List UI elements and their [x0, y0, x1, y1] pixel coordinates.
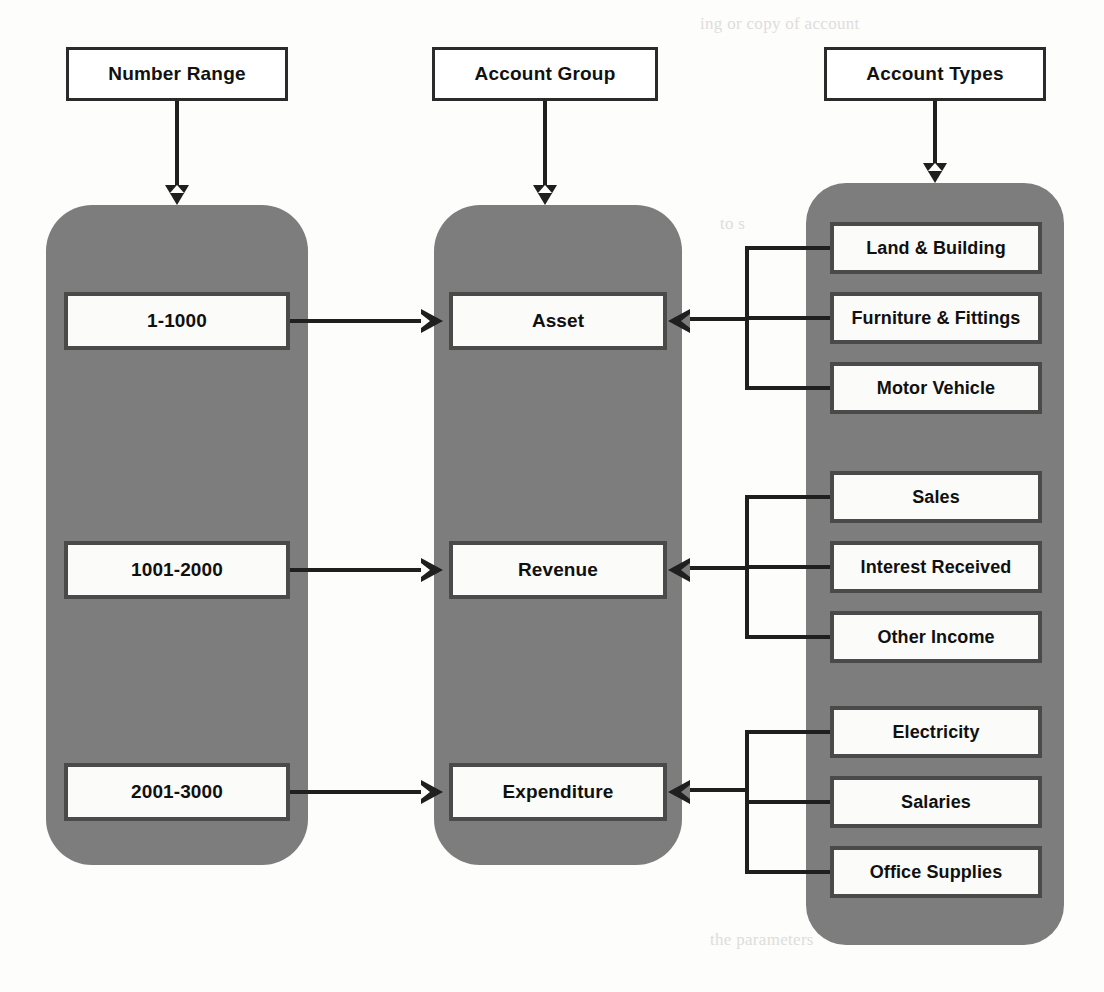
box-type-salaries-label: Salaries: [901, 792, 971, 813]
box-type-electricity-label: Electricity: [892, 722, 979, 743]
background-text-1: ing or copy of account: [700, 14, 860, 34]
background-text-3: to s: [720, 214, 745, 234]
box-type-electricity[interactable]: Electricity: [830, 706, 1042, 758]
box-type-other-income-label: Other Income: [877, 627, 994, 648]
box-group-revenue[interactable]: Revenue: [449, 541, 667, 599]
box-group-expenditure[interactable]: Expenditure: [449, 763, 667, 821]
connector-stub-furniture-fittings: [745, 316, 832, 320]
arrow-asset-types-to-group: [668, 309, 690, 333]
connector-bus-expenditure-to-group: [690, 788, 749, 792]
header-number-range-label: Number Range: [108, 63, 246, 85]
arrow-header-account-group: [533, 185, 557, 205]
box-type-furniture-fittings-label: Furniture & Fittings: [852, 308, 1021, 329]
connector-bus-expenditure: [745, 730, 749, 874]
diagram-canvas: ing or copy of account for its credit an…: [0, 0, 1104, 992]
box-type-land-building-label: Land & Building: [866, 238, 1005, 259]
box-type-other-income[interactable]: Other Income: [830, 611, 1042, 663]
connector-stub-interest-received: [745, 565, 832, 569]
box-type-motor-vehicle[interactable]: Motor Vehicle: [830, 362, 1042, 414]
arrow-revenue-types-to-group: [668, 558, 690, 582]
box-group-asset[interactable]: Asset: [449, 292, 667, 350]
box-range-revenue-label: 1001-2000: [131, 559, 223, 581]
header-account-group[interactable]: Account Group: [432, 47, 658, 101]
connector-stub-office-supplies: [745, 870, 832, 874]
header-number-range[interactable]: Number Range: [66, 47, 288, 101]
arrow-header-number-range: [165, 185, 189, 205]
connector-range-revenue-to-group: [290, 568, 425, 572]
header-account-types-label: Account Types: [866, 63, 1003, 85]
box-range-revenue[interactable]: 1001-2000: [64, 541, 290, 599]
connector-bus-revenue-to-group: [690, 566, 749, 570]
arrow-header-account-types: [923, 163, 947, 183]
arrow-expenditure-types-to-group: [668, 780, 690, 804]
header-account-types[interactable]: Account Types: [824, 47, 1046, 101]
box-type-interest-received[interactable]: Interest Received: [830, 541, 1042, 593]
connector-stub-salaries: [745, 800, 832, 804]
connector-header-account-types: [933, 101, 937, 163]
arrow-range-expenditure-to-group: [421, 780, 443, 804]
box-type-office-supplies-label: Office Supplies: [870, 862, 1003, 883]
connector-stub-sales: [745, 495, 832, 499]
connector-stub-motor-vehicle: [745, 386, 832, 390]
box-group-revenue-label: Revenue: [518, 559, 598, 581]
box-type-office-supplies[interactable]: Office Supplies: [830, 846, 1042, 898]
header-account-group-label: Account Group: [475, 63, 616, 85]
box-type-motor-vehicle-label: Motor Vehicle: [877, 378, 995, 399]
connector-range-expenditure-to-group: [290, 790, 425, 794]
box-type-land-building[interactable]: Land & Building: [830, 222, 1042, 274]
connector-stub-land-building: [745, 246, 832, 250]
background-text-5: the parameters: [710, 930, 814, 950]
box-type-interest-received-label: Interest Received: [861, 557, 1012, 578]
box-range-expenditure-label: 2001-3000: [131, 781, 223, 803]
box-range-asset-label: 1-1000: [147, 310, 207, 332]
box-group-expenditure-label: Expenditure: [503, 781, 614, 803]
connector-header-number-range: [175, 101, 179, 185]
box-range-asset[interactable]: 1-1000: [64, 292, 290, 350]
box-type-sales-label: Sales: [912, 487, 960, 508]
box-type-furniture-fittings[interactable]: Furniture & Fittings: [830, 292, 1042, 344]
connector-bus-asset-to-group: [690, 317, 749, 321]
box-group-asset-label: Asset: [532, 310, 584, 332]
connector-stub-electricity: [745, 730, 832, 734]
box-range-expenditure[interactable]: 2001-3000: [64, 763, 290, 821]
connector-stub-other-income: [745, 635, 832, 639]
connector-header-account-group: [543, 101, 547, 185]
arrow-range-asset-to-group: [421, 309, 443, 333]
box-type-salaries[interactable]: Salaries: [830, 776, 1042, 828]
box-type-sales[interactable]: Sales: [830, 471, 1042, 523]
connector-range-asset-to-group: [290, 319, 425, 323]
arrow-range-revenue-to-group: [421, 558, 443, 582]
